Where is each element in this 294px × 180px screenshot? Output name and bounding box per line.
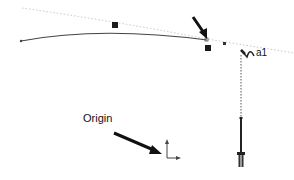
origin-axes-icon bbox=[165, 139, 181, 160]
control-handle-1[interactable] bbox=[112, 22, 118, 28]
pointer-arrow bbox=[193, 17, 207, 39]
bezier-curve[interactable] bbox=[20, 33, 207, 42]
origin-label: Origin bbox=[83, 112, 112, 124]
control-handle-2[interactable] bbox=[205, 45, 211, 51]
cursor-text: a1 bbox=[256, 47, 267, 58]
pen-cursor-icon bbox=[241, 50, 254, 57]
diagram-canvas bbox=[0, 0, 294, 180]
tangent-guide bbox=[22, 8, 294, 53]
origin-arrow bbox=[114, 133, 162, 154]
next-point-marker bbox=[223, 42, 226, 45]
stylus-tool-icon bbox=[237, 117, 245, 167]
